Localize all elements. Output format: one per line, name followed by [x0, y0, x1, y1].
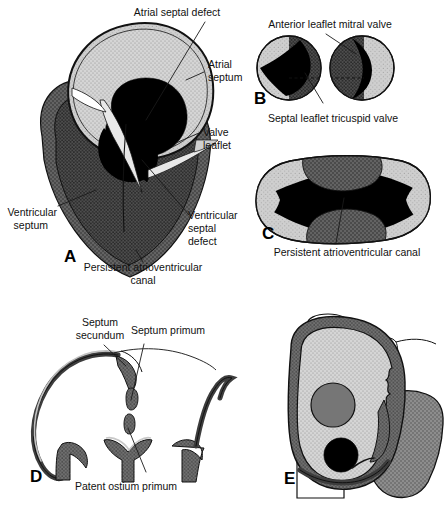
label-septal-leaflet-tricuspid-valve: Septal leaflet tricuspid valve	[268, 112, 398, 124]
label-valve-leaflet-line2: leaflet	[203, 139, 231, 151]
label-septum-primum: Septum primum	[131, 324, 205, 336]
label-valve-leaflet-line1: Valve	[203, 126, 229, 138]
label-atrial-septum-line1: Atrial	[208, 58, 232, 70]
label-ventricular-septum-line2: septum	[14, 219, 49, 231]
label-persistent-av-canal-c: Persistent atrioventricular canal	[274, 246, 420, 258]
panel-letter-b: B	[254, 89, 266, 108]
label-atrial-septal-defect: Atrial septal defect	[134, 6, 220, 18]
label-vsd-line3: defect	[188, 235, 217, 247]
label-vsd-line2: septal	[188, 222, 216, 234]
label-septum-secundum-line2: secundum	[76, 329, 125, 341]
caption-a-line2: canal	[130, 274, 155, 286]
panel-letter-d: D	[30, 467, 42, 486]
label-ventricular-septum-line1: Ventricular	[7, 206, 57, 218]
panel-letter-a: A	[64, 247, 76, 266]
caption-a-line1: Persistent atrioventricular	[84, 261, 203, 273]
label-atrial-septum-line2: septum	[208, 71, 243, 83]
panel-letter-c: C	[262, 224, 274, 243]
label-septum-secundum-line1: Septum	[82, 316, 118, 328]
figure-canvas: Atrial septal defect Atrial septum Valve…	[0, 0, 446, 506]
label-patent-ostium-primum: Patent ostium primum	[75, 480, 177, 492]
panel-letter-e: E	[284, 469, 295, 488]
label-anterior-leaflet-mitral-valve: Anterior leaflet mitral valve	[268, 18, 392, 30]
label-vsd-line1: Ventricular	[188, 209, 238, 221]
e-gray-orifice	[311, 383, 355, 427]
d-septum-primum-upper	[126, 388, 138, 410]
